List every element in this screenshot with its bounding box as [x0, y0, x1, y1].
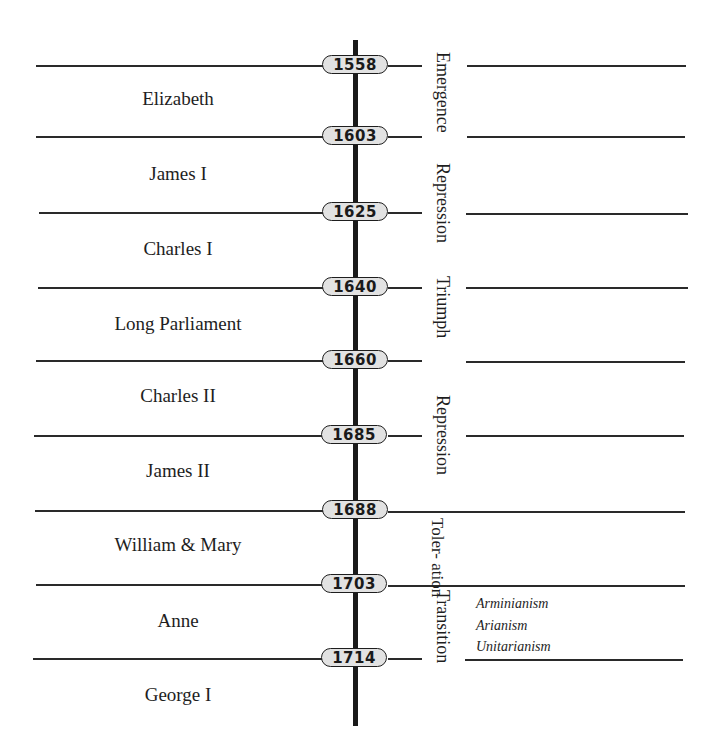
divider-left-1603	[36, 136, 326, 138]
divider-left-1660	[36, 360, 326, 362]
year-pill-1640: 1640	[322, 277, 388, 296]
year-pill-1603: 1603	[322, 126, 388, 145]
divider-left-1703	[36, 584, 326, 586]
year-pill-1660: 1660	[322, 350, 388, 369]
phase-label-repression-1: Repression	[432, 163, 453, 259]
note-arminianism: Arminianism	[476, 596, 548, 612]
divider-right-1625	[466, 213, 688, 215]
divider-right-1640	[466, 287, 688, 289]
divider-left-1640	[38, 287, 326, 289]
reign-label-george-i: George I	[18, 684, 338, 706]
reign-label-anne: Anne	[18, 610, 338, 632]
reign-label-elizabeth: Elizabeth	[18, 88, 338, 110]
year-pill-1685: 1685	[321, 425, 387, 444]
divider-left-1558	[36, 65, 326, 67]
divider-left-1714	[33, 658, 326, 660]
divider-right-1558	[467, 65, 686, 67]
reign-label-james-ii: James II	[18, 460, 338, 482]
reign-label-william-mary: William & Mary	[18, 534, 338, 556]
divider-right-stub-1660	[388, 360, 422, 362]
divider-left-1625	[39, 212, 326, 214]
phase-label-triumph: Triumph	[432, 276, 453, 360]
divider-right-1714	[465, 659, 683, 661]
year-pill-1714: 1714	[321, 648, 387, 667]
divider-right-1685	[466, 435, 684, 437]
divider-right-1688	[388, 511, 685, 513]
phase-label-transition: Transition	[432, 590, 453, 686]
phase-label-toleration-line1: Toler-	[428, 518, 447, 559]
reign-label-james-i: James I	[18, 163, 338, 185]
divider-right-stub-1558	[388, 65, 422, 67]
phase-label-emergence: Emergence	[432, 52, 453, 152]
reign-label-charles-ii: Charles II	[18, 385, 338, 407]
divider-right-stub-1603	[388, 136, 422, 138]
divider-right-stub-1640	[388, 287, 422, 289]
note-unitarianism: Unitarianism	[476, 639, 551, 655]
phase-label-toleration: Toler- ation	[430, 518, 444, 597]
divider-right-stub-1625	[388, 212, 422, 214]
divider-right-stub-1714	[388, 658, 422, 660]
year-pill-1625: 1625	[322, 202, 388, 221]
reign-label-long-parliament: Long Parliament	[18, 313, 338, 335]
divider-left-1685	[34, 435, 326, 437]
year-pill-1688: 1688	[322, 500, 388, 519]
year-pill-1558: 1558	[322, 55, 388, 74]
divider-right-1660	[466, 361, 685, 363]
year-pill-1703: 1703	[321, 574, 387, 593]
divider-right-stub-1685	[388, 435, 422, 437]
divider-left-1688	[35, 510, 326, 512]
note-arianism: Arianism	[476, 618, 527, 634]
divider-right-1603	[467, 136, 685, 138]
phase-label-repression-2: Repression	[432, 395, 453, 495]
reign-label-charles-i: Charles I	[18, 238, 338, 260]
